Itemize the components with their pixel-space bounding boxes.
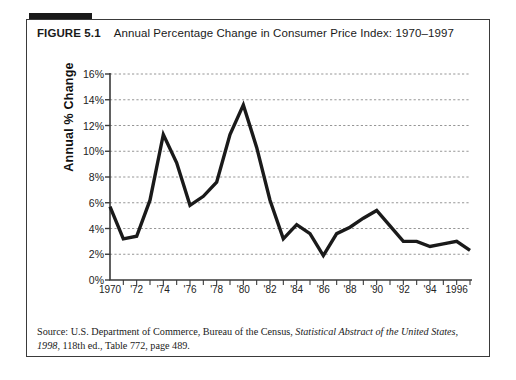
figure-caption: FIGURE 5.1Annual Percentage Change in Co… [37, 27, 477, 45]
figure-title: Annual Percentage Change in Consumer Pri… [114, 27, 454, 39]
figure-number: FIGURE 5.1 [37, 27, 101, 39]
figure-border [26, 19, 490, 357]
source-text-b: , 118th ed., Table 772, page 489. [57, 340, 190, 351]
source-text-a: Source: U.S. Department of Commerce, Bur… [37, 326, 295, 337]
figure-page: FIGURE 5.1Annual Percentage Change in Co… [0, 0, 516, 380]
source-note: Source: U.S. Department of Commerce, Bur… [37, 325, 471, 353]
source-text-italic-a: Statistical Abstract of the United State… [295, 326, 458, 337]
source-text-italic-b: 1998 [37, 340, 57, 351]
